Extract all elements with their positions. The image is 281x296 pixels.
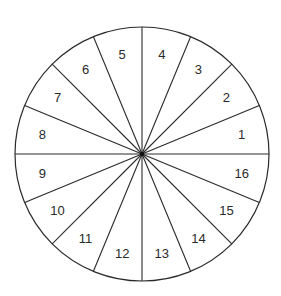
segment-label: 1 — [238, 127, 245, 142]
segment-label: 7 — [54, 90, 61, 105]
segment-label: 8 — [39, 127, 46, 142]
segment-label: 16 — [234, 166, 248, 181]
segment-label: 2 — [223, 90, 230, 105]
segment-label: 12 — [115, 246, 129, 261]
segment-label: 9 — [39, 166, 46, 181]
segment-label: 5 — [119, 47, 126, 62]
segment-label: 4 — [158, 47, 165, 62]
segment-label: 13 — [155, 246, 169, 261]
segment-label: 11 — [79, 231, 93, 246]
segment-label: 15 — [219, 203, 233, 218]
segmented-circle-diagram: 12345678910111213141516 — [0, 0, 281, 296]
segment-label: 10 — [50, 203, 64, 218]
segment-label: 14 — [191, 231, 205, 246]
segment-label: 3 — [195, 62, 202, 77]
segment-label: 6 — [82, 62, 89, 77]
center-hub — [140, 152, 144, 156]
